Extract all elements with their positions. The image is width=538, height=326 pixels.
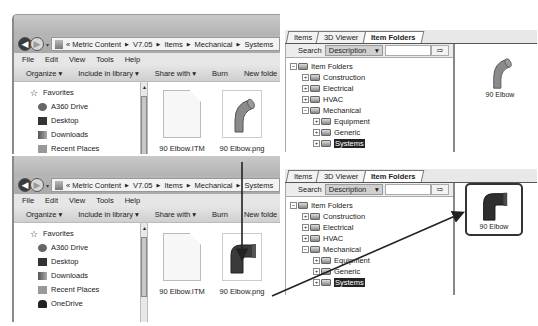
arrow-to-preview bbox=[272, 213, 462, 296]
annotation-arrows bbox=[0, 0, 538, 326]
